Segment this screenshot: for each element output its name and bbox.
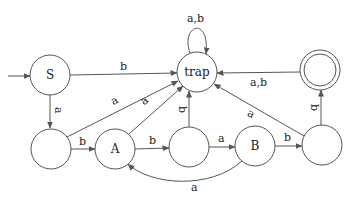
- edge-label: b: [149, 134, 156, 147]
- state-q3: [169, 127, 209, 167]
- state-a: A: [95, 129, 135, 169]
- edge-label: a,b: [250, 76, 267, 89]
- state-b: B: [235, 126, 275, 166]
- state-label: A: [110, 142, 120, 156]
- edge-label: a: [218, 132, 225, 145]
- edge-accept-trap: [217, 72, 300, 73]
- edge-s-trap: [70, 73, 177, 75]
- edge-label: a: [109, 93, 121, 108]
- state-label: B: [251, 139, 260, 153]
- edge-trap-self: [188, 28, 206, 54]
- edge-label: a: [245, 107, 258, 122]
- edge-label: b: [284, 131, 291, 144]
- state-q5: [302, 125, 342, 165]
- state-label: S: [46, 68, 54, 82]
- edge-a-trap: [129, 86, 183, 134]
- edge-label: a,b: [187, 12, 204, 25]
- edge-q1-trap: [67, 81, 178, 137]
- automaton-diagram: b a a,b a,b a b a b b a a b a b S trap: [0, 0, 351, 202]
- edge-label: b: [308, 104, 321, 111]
- state-label: trap: [184, 65, 210, 79]
- edge-label: a: [191, 181, 198, 194]
- edge-label: b: [79, 135, 86, 148]
- state-trap: trap: [177, 52, 217, 92]
- state-q1: [31, 129, 71, 169]
- edge-a-q3: [135, 148, 169, 149]
- edge-label: b: [120, 60, 127, 73]
- edge-label: a: [52, 107, 65, 114]
- state-accept: [300, 50, 340, 90]
- state-s: S: [30, 55, 70, 95]
- edge-label: b: [176, 106, 189, 113]
